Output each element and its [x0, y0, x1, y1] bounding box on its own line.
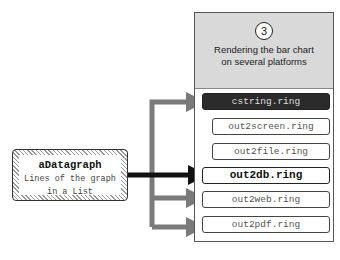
file-out2file: out2file.ring	[212, 143, 330, 160]
step-number-badge: 3	[255, 22, 273, 40]
file-out2web: out2web.ring	[202, 191, 330, 208]
file-out2screen: out2screen.ring	[212, 118, 330, 135]
panel-header: 3 Rendering the bar chart on several pla…	[195, 13, 333, 89]
file-out2db: out2db.ring	[202, 167, 330, 184]
source-subtitle-line2: in a List	[19, 187, 121, 197]
file-out2pdf: out2pdf.ring	[202, 216, 330, 233]
file-cstring: cstring.ring	[202, 93, 330, 110]
panel-title-line1: Rendering the bar chart	[195, 44, 333, 56]
source-title: aDatagraph	[19, 159, 121, 171]
source-subtitle-line1: Lines of the graph	[19, 174, 121, 184]
adatagraph-box: aDatagraph Lines of the graph in a List	[12, 149, 128, 201]
panel-title-line2: on several platforms	[195, 56, 333, 68]
